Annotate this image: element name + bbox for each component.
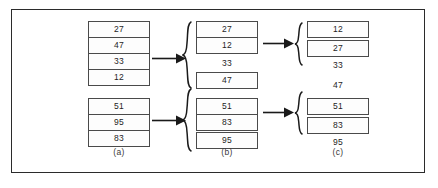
value-cell: 12 bbox=[88, 69, 150, 86]
brace-c-bottom-icon bbox=[294, 91, 303, 135]
value-cell: 27 bbox=[307, 40, 369, 57]
value-cell: 33 bbox=[88, 53, 150, 70]
value-cell: 51 bbox=[307, 98, 369, 115]
stage-a-group-top: 27 47 33 12 bbox=[88, 21, 150, 86]
stage-c-box-2: 27 bbox=[307, 40, 369, 57]
brace-b-bottom-icon bbox=[182, 88, 192, 152]
figure-frame: 27 47 33 12 51 95 83 (a) bbox=[11, 9, 425, 173]
value-cell: 95 bbox=[88, 114, 150, 131]
caption-c: (c) bbox=[303, 147, 373, 157]
value-cell: 12 bbox=[196, 37, 258, 54]
value-cell: 83 bbox=[307, 117, 369, 134]
stage-b-group-bottom: 51 83 bbox=[196, 98, 258, 131]
value-cell: 47 bbox=[88, 37, 150, 54]
value-cell: 83 bbox=[196, 114, 258, 131]
caption-b: (b) bbox=[192, 147, 262, 157]
arrow-a-bottom-icon bbox=[152, 115, 186, 126]
stage-a-group-bottom: 51 95 83 bbox=[88, 98, 150, 147]
value-cell: 12 bbox=[307, 21, 369, 38]
bare-value: 33 bbox=[196, 56, 258, 70]
caption-a: (a) bbox=[84, 147, 154, 157]
stage-c-box-3: 51 bbox=[307, 98, 369, 115]
stage-c-box-1: 12 bbox=[307, 21, 369, 38]
stage-b-group-top: 27 12 bbox=[196, 21, 258, 54]
brace-b-top-icon bbox=[182, 21, 192, 89]
value-cell: 51 bbox=[196, 98, 258, 115]
stage-c-box-4: 83 bbox=[307, 117, 369, 134]
value-cell: 47 bbox=[196, 72, 258, 89]
brace-c-top-icon bbox=[294, 22, 303, 66]
bare-value: 47 bbox=[307, 78, 369, 92]
value-cell: 27 bbox=[196, 21, 258, 38]
bare-value: 33 bbox=[307, 58, 369, 72]
value-cell: 27 bbox=[88, 21, 150, 38]
value-cell: 51 bbox=[88, 98, 150, 115]
arrow-a-top-icon bbox=[152, 53, 186, 64]
stage-b-group-single-top: 47 bbox=[196, 72, 258, 89]
arrow-b-bottom-icon bbox=[263, 107, 294, 118]
value-cell: 83 bbox=[88, 130, 150, 147]
arrow-b-top-icon bbox=[263, 38, 294, 49]
